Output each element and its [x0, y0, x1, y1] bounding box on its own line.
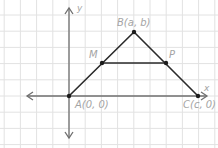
- point-M: [100, 61, 104, 65]
- label-C: C(c, 0): [183, 99, 216, 110]
- x-axis-label: x: [203, 83, 210, 93]
- coordinate-diagram: y x B(a, b) M P A(0, 0) C(c, 0): [0, 0, 218, 148]
- y-axis: [65, 8, 73, 138]
- label-M: M: [89, 49, 98, 60]
- point-C: [196, 94, 200, 98]
- point-A: [67, 94, 71, 98]
- label-P: P: [169, 49, 176, 60]
- point-B: [132, 30, 136, 34]
- label-B: B(a, b): [117, 17, 151, 28]
- x-axis: [27, 92, 207, 100]
- label-A: A(0, 0): [74, 99, 109, 110]
- grid: [0, 0, 218, 148]
- y-axis-label: y: [76, 3, 83, 13]
- point-P: [164, 61, 168, 65]
